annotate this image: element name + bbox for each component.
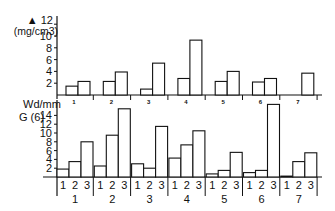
bottom-subgroup-label: 1 bbox=[97, 179, 103, 191]
bottom-ylabel-line1: Wd/mm bbox=[23, 98, 61, 110]
bottom-group-label: 1 bbox=[72, 193, 78, 205]
bottom-subgroup-label: 3 bbox=[84, 179, 90, 191]
bottom-bar bbox=[94, 166, 106, 177]
bottom-ylabel-line2: G (6) bbox=[19, 111, 44, 123]
top-group-label: 3 bbox=[147, 99, 151, 105]
top-bar bbox=[190, 40, 202, 95]
bottom-bar bbox=[305, 153, 317, 177]
bottom-bar bbox=[106, 135, 118, 177]
top-bar bbox=[115, 72, 127, 95]
bar-charts-svg: 246810▲ 12(mg/cm3)12345672468101214Wd/mm… bbox=[0, 0, 335, 211]
bottom-bar bbox=[156, 126, 168, 177]
bottom-bar bbox=[118, 109, 130, 177]
top-group-label: 5 bbox=[222, 99, 226, 105]
top-group-label: 4 bbox=[184, 99, 188, 105]
bottom-bar bbox=[144, 168, 156, 177]
bottom-group-label: 5 bbox=[221, 193, 227, 205]
top-group-label: 1 bbox=[72, 99, 76, 105]
bottom-subgroup-label: 2 bbox=[72, 179, 78, 191]
top-bar bbox=[302, 73, 314, 95]
top-bar bbox=[265, 78, 277, 95]
bottom-bar bbox=[230, 152, 242, 177]
bottom-subgroup-label: 1 bbox=[284, 179, 290, 191]
top-bar bbox=[253, 82, 265, 95]
bottom-subgroup-label: 1 bbox=[209, 179, 215, 191]
bottom-bar bbox=[193, 131, 205, 177]
bottom-bar bbox=[81, 142, 93, 177]
top-bar bbox=[178, 78, 190, 95]
bottom-bar bbox=[281, 176, 293, 177]
bottom-bar bbox=[206, 174, 218, 177]
top-group-label: 7 bbox=[296, 99, 300, 105]
bottom-group-label: 6 bbox=[258, 193, 264, 205]
bottom-group-label: 7 bbox=[296, 193, 302, 205]
bottom-subgroup-label: 2 bbox=[258, 179, 264, 191]
bottom-subgroup-label: 2 bbox=[221, 179, 227, 191]
bottom-bar bbox=[57, 169, 69, 177]
top-ylabel-unit: (mg/cm3) bbox=[14, 25, 58, 37]
bottom-bar bbox=[69, 162, 81, 177]
bottom-subgroup-label: 2 bbox=[296, 179, 302, 191]
top-bar bbox=[78, 81, 90, 95]
bottom-subgroup-label: 2 bbox=[147, 179, 153, 191]
top-bar bbox=[227, 71, 239, 95]
bottom-subgroup-label: 3 bbox=[308, 179, 314, 191]
top-bar bbox=[153, 63, 165, 95]
bottom-subgroup-label: 1 bbox=[246, 179, 252, 191]
top-ytick-label: 6 bbox=[46, 54, 52, 66]
bottom-subgroup-label: 2 bbox=[184, 179, 190, 191]
bottom-subgroup-label: 3 bbox=[270, 179, 276, 191]
bottom-group-label: 3 bbox=[147, 193, 153, 205]
top-group-label: 2 bbox=[110, 99, 114, 105]
top-group-label: 6 bbox=[259, 99, 263, 105]
bottom-subgroup-label: 3 bbox=[233, 179, 239, 191]
top-ytick-label: 2 bbox=[46, 77, 52, 89]
bottom-subgroup-label: 1 bbox=[135, 179, 141, 191]
top-ytick-label: 4 bbox=[46, 65, 52, 77]
bottom-group-label: 2 bbox=[109, 193, 115, 205]
top-bar bbox=[141, 89, 153, 95]
bottom-subgroup-label: 3 bbox=[196, 179, 202, 191]
bottom-subgroup-label: 3 bbox=[121, 179, 127, 191]
bottom-bar bbox=[256, 170, 268, 177]
bottom-subgroup-label: 3 bbox=[159, 179, 165, 191]
bottom-bar bbox=[169, 158, 181, 177]
bottom-subgroup-label: 1 bbox=[60, 179, 66, 191]
top-ytick-label: 8 bbox=[46, 42, 52, 54]
bottom-bar bbox=[268, 104, 280, 177]
chart-figure: 246810▲ 12(mg/cm3)12345672468101214Wd/mm… bbox=[0, 0, 335, 211]
bottom-bar bbox=[132, 164, 144, 177]
bottom-bar bbox=[181, 145, 193, 177]
bottom-bar bbox=[293, 162, 305, 177]
bottom-bar bbox=[218, 170, 230, 177]
bottom-group-label: 4 bbox=[184, 193, 190, 205]
bottom-bar bbox=[244, 173, 256, 177]
top-bar bbox=[103, 81, 115, 95]
bottom-subgroup-label: 1 bbox=[172, 179, 178, 191]
bottom-subgroup-label: 2 bbox=[109, 179, 115, 191]
top-bar bbox=[215, 81, 227, 95]
top-bar bbox=[66, 86, 78, 95]
